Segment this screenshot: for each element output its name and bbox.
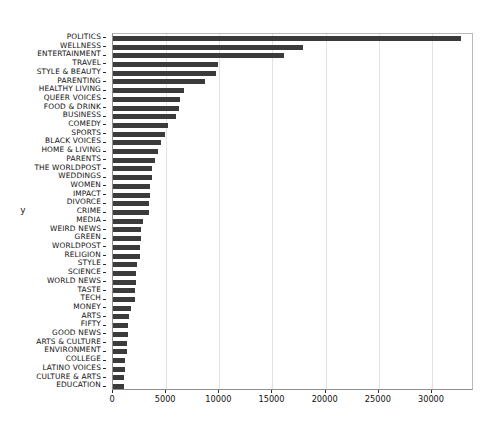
y-axis-tick-mark	[103, 299, 106, 300]
bar	[113, 123, 168, 128]
y-axis-tick-mark	[103, 107, 106, 108]
y-axis-tick-mark	[103, 368, 106, 369]
y-axis-tick-mark	[103, 133, 106, 134]
x-axis-tick-label: 15000	[258, 394, 284, 404]
bar	[113, 140, 161, 145]
bar	[113, 314, 129, 319]
y-axis-tick-mark	[103, 63, 106, 64]
x-axis-tick-label: 10000	[205, 394, 231, 404]
bar	[113, 114, 176, 119]
bar	[113, 332, 128, 337]
gridline	[219, 34, 220, 389]
y-axis-tick-mark	[103, 220, 106, 221]
y-axis-tick-mark	[103, 55, 106, 56]
bar	[113, 88, 184, 93]
bar	[113, 193, 150, 198]
x-axis-tick-mark	[378, 390, 379, 393]
y-axis-tick-mark	[103, 290, 106, 291]
y-axis-tick-mark	[103, 360, 106, 361]
bar	[113, 367, 125, 372]
y-axis-tick-mark	[103, 325, 106, 326]
bar	[113, 341, 127, 346]
x-axis-tick-mark	[271, 390, 272, 393]
bar	[113, 62, 218, 67]
y-axis-tick-mark	[103, 281, 106, 282]
bar	[113, 358, 125, 363]
y-axis-tick-mark	[103, 37, 106, 38]
x-axis-tick-mark	[431, 390, 432, 393]
bar	[113, 245, 140, 250]
y-axis-tick-mark	[103, 203, 106, 204]
bar	[113, 106, 179, 111]
y-axis-tick-mark	[103, 90, 106, 91]
bar	[113, 227, 141, 232]
bar	[113, 236, 141, 241]
bar	[113, 45, 303, 50]
y-axis-tick-mark	[103, 116, 106, 117]
bar	[113, 71, 216, 76]
bar	[113, 280, 136, 285]
y-axis-tick-mark	[103, 272, 106, 273]
x-axis-tick-mark	[165, 390, 166, 393]
y-axis-tick-mark	[103, 159, 106, 160]
y-axis-tick-mark	[103, 142, 106, 143]
gridline	[272, 34, 273, 389]
x-axis-tick-mark	[112, 390, 113, 393]
bar	[113, 384, 124, 389]
y-axis-tick-labels: POLITICSWELLNESSENTERTAINMENTTRAVELSTYLE…	[0, 33, 106, 390]
x-axis-tick-label: 30000	[418, 394, 444, 404]
bar	[113, 306, 131, 311]
bar	[113, 97, 180, 102]
x-axis-tick-label: 0	[109, 394, 114, 404]
plot-area	[112, 33, 473, 390]
x-axis-tick-label: 5000	[155, 394, 176, 404]
bar	[113, 149, 158, 154]
bar	[113, 375, 124, 380]
bar	[113, 219, 143, 224]
y-axis-tick-mark	[103, 351, 106, 352]
x-axis-tick-label: 25000	[365, 394, 391, 404]
y-axis-tick-mark	[103, 168, 106, 169]
y-axis-tick-mark	[103, 151, 106, 152]
x-axis-tick-mark	[325, 390, 326, 393]
gridline	[432, 34, 433, 389]
y-axis-tick-mark	[103, 264, 106, 265]
y-axis-tick-mark	[103, 46, 106, 47]
y-axis-tick-mark	[103, 124, 106, 125]
x-axis-tick-mark	[218, 390, 219, 393]
y-axis-tick-mark	[103, 98, 106, 99]
bar	[113, 53, 284, 58]
gridline	[326, 34, 327, 389]
bar	[113, 79, 205, 84]
bar	[113, 184, 150, 189]
bar	[113, 158, 155, 163]
bar	[113, 254, 140, 259]
y-axis-tick-mark	[103, 246, 106, 247]
y-axis-tick-mark	[103, 377, 106, 378]
bar	[113, 210, 149, 215]
y-axis-tick-mark	[103, 229, 106, 230]
y-axis-tick-mark	[103, 316, 106, 317]
bar-chart-figure: y POLITICSWELLNESSENTERTAINMENTTRAVELSTY…	[0, 0, 499, 433]
y-axis-tick-mark	[103, 212, 106, 213]
bar	[113, 166, 152, 171]
x-axis-tick-label: 20000	[312, 394, 338, 404]
y-axis-tick-mark	[103, 177, 106, 178]
y-axis-tick-mark	[103, 307, 106, 308]
y-axis-tick-mark	[103, 342, 106, 343]
bar	[113, 175, 152, 180]
y-axis-tick-mark	[103, 238, 106, 239]
bar	[113, 271, 136, 276]
bar	[113, 349, 127, 354]
bar	[113, 36, 461, 41]
y-axis-tick-mark	[103, 72, 106, 73]
y-axis-tick-mark	[103, 194, 106, 195]
bar	[113, 297, 135, 302]
x-axis-tick-labels: 050001000015000200002500030000	[112, 390, 473, 412]
y-axis-tick-mark	[103, 255, 106, 256]
bar	[113, 323, 128, 328]
y-axis-tick-mark	[103, 185, 106, 186]
bar	[113, 262, 137, 267]
y-axis-tick-mark	[103, 386, 106, 387]
bar	[113, 132, 165, 137]
